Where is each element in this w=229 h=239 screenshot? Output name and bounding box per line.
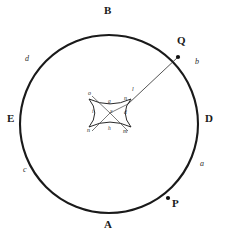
label-B: B [104,5,112,16]
label-caustic-m: m [123,128,127,134]
label-ray-l: l [132,86,134,92]
label-caustic-n-left: n [87,127,90,133]
label-point-Q: Q [177,35,186,46]
label-caustic-o: o [88,90,91,96]
label-caustic-d: d [124,110,127,116]
label-arc-d: d [25,55,29,63]
label-caustic-h: h [108,126,111,132]
label-point-P: P [172,198,179,209]
diagram-canvas [0,0,229,239]
point-marker-q [176,55,180,59]
label-arc-c: c [23,166,27,174]
label-arc-b: b [195,58,199,66]
caustic-diagram: B D A E d b a c Q P l o n g i x d n h m [0,0,229,239]
label-caustic-n-top: n [124,95,127,101]
label-caustic-x: x [110,109,112,115]
label-E: E [7,113,15,124]
incident-ray [128,57,178,104]
label-D: D [205,113,213,124]
label-A: A [104,219,112,230]
label-caustic-g: g [108,99,111,105]
point-marker-p [166,196,170,200]
main-circle [20,35,198,213]
label-caustic-i: i [92,109,94,115]
label-arc-a: a [200,160,204,168]
